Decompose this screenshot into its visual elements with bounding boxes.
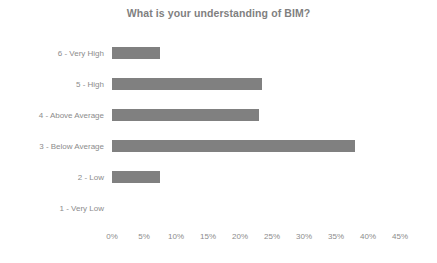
bar-chart: What is your understanding of BIM? 6 - V… (0, 0, 437, 263)
y-axis-label: 4 - Above Average (0, 100, 104, 131)
chart-row: 4 - Above Average (0, 100, 437, 131)
y-axis-label: 2 - Low (0, 162, 104, 193)
chart-row: 6 - Very High (0, 38, 437, 69)
chart-row: 3 - Below Average (0, 131, 437, 162)
bar (112, 140, 355, 152)
plot-area: 6 - Very High 5 - High 4 - Above Average… (0, 38, 437, 226)
chart-row: 1 - Very Low (0, 193, 437, 224)
bar (112, 171, 160, 183)
chart-row: 5 - High (0, 69, 437, 100)
chart-title: What is your understanding of BIM? (0, 7, 437, 19)
bar (112, 47, 160, 59)
x-axis: 0% 5% 10% 15% 20% 25% 30% 35% 40% 45% (0, 232, 437, 246)
bar (112, 109, 259, 121)
y-axis-label: 6 - Very High (0, 38, 104, 69)
y-axis-label: 1 - Very Low (0, 193, 104, 224)
y-axis-label: 3 - Below Average (0, 131, 104, 162)
x-axis-tick: 45% (380, 232, 420, 241)
chart-row: 2 - Low (0, 162, 437, 193)
y-axis-label: 5 - High (0, 69, 104, 100)
bar (112, 78, 262, 90)
